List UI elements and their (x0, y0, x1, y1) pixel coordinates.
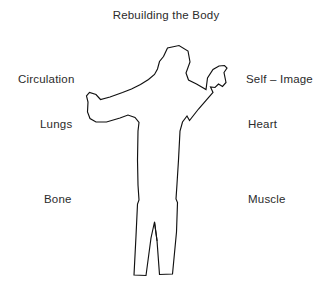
leg-inseam-line (155, 222, 158, 241)
label-heart: Heart (248, 117, 277, 131)
label-muscle: Muscle (248, 192, 286, 206)
body-outline-figure (0, 0, 332, 296)
body-outline-path (87, 46, 228, 276)
label-self-image: Self – Image (246, 72, 313, 86)
label-lungs: Lungs (40, 117, 72, 131)
label-bone: Bone (44, 192, 72, 206)
label-circulation: Circulation (18, 72, 75, 86)
diagram-canvas: Rebuilding the Body Circulation Lungs Bo… (0, 0, 332, 296)
